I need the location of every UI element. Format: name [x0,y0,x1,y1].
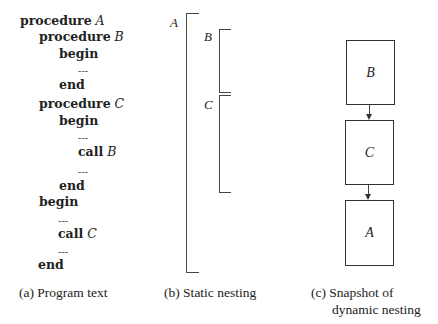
code-line-4: end [59,79,85,92]
label-a: A [170,15,178,31]
bracket-a-top [186,13,199,14]
bracket-a-bottom [186,272,199,273]
bracket-b-top [219,29,231,30]
label-b: B [204,29,212,45]
caption-dynamic-nesting-2: dynamic nesting [332,301,421,318]
code-line-9: --- [78,167,88,177]
code-line-0: procedureA [20,15,105,28]
code-line-10: end [59,180,85,193]
code-line-1: procedureB [39,31,124,44]
code-line-12: --- [58,216,68,226]
code-line-15: end [38,259,64,272]
frame-a: A [345,200,394,266]
bracket-a-vertical [186,13,187,273]
code-line-3: --- [78,66,88,76]
code-line-5: procedureC [39,98,124,111]
code-line-11: begin [39,196,78,209]
code-line-8: callB [78,146,116,159]
bracket-c-top [219,95,231,96]
caption-program-text: (a) Program text [19,284,107,301]
caption-static-nesting: (b) Static nesting [164,284,256,301]
code-line-7: --- [78,133,88,143]
code-line-2: begin [59,48,98,61]
bracket-c-vertical [219,95,220,193]
bracket-b-bottom [219,92,231,93]
frame-c: C [345,120,394,185]
bracket-b-vertical [219,29,220,93]
bracket-c-bottom [219,192,231,193]
frame-b: B [346,40,395,105]
code-line-6: begin [59,115,98,128]
code-line-14: --- [58,247,68,257]
caption-dynamic-nesting-1: (c) Snapshot of [311,284,393,301]
code-line-13: callC [58,228,97,241]
label-c: C [204,97,213,113]
